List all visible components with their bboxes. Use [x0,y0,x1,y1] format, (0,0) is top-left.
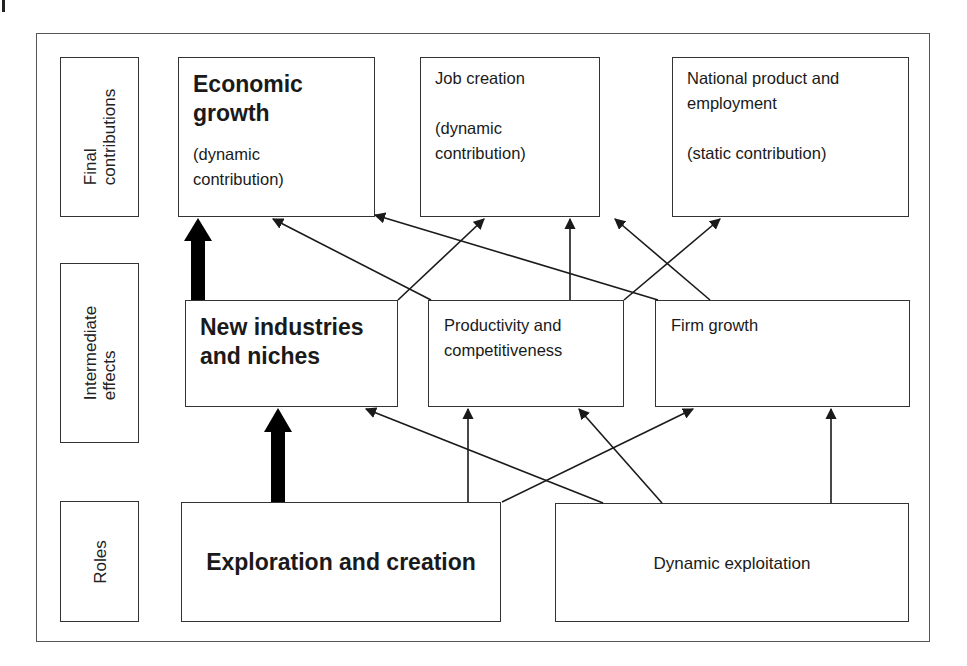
arrow-exploration-to-firm-growth [502,409,693,502]
arrows-layer [0,0,967,666]
arrow-productivity-to-national-product [624,219,720,300]
thick-arrow-new-industries-to-economic-growth-head [184,218,212,241]
arrow-exploitation-to-new-industries [366,409,603,503]
arrow-firm-growth-to-economic-growth [375,215,658,300]
arrow-firm-growth-to-job-creation [615,219,710,300]
thick-arrow-new-industries-to-economic-growth-shaft [191,240,205,300]
arrow-productivity-to-economic-growth [273,219,431,300]
thick-arrow-exploration-to-new-industries-head [264,408,292,432]
arrow-exploitation-to-productivity [579,409,662,503]
thick-arrow-exploration-to-new-industries-shaft [271,430,285,502]
arrow-new-industries-to-job-creation [398,219,484,300]
